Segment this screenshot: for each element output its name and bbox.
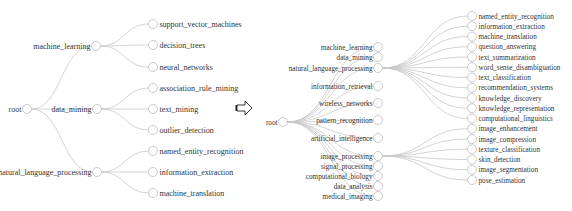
right-leaf-node[interactable]: text_classification (468, 73, 532, 82)
node-circle-icon[interactable] (149, 168, 158, 177)
node-circle-icon[interactable] (93, 168, 102, 177)
left-root-node[interactable]: root (9, 105, 32, 114)
right-leaf-node[interactable]: information_extraction (468, 22, 546, 31)
node-circle-icon[interactable] (149, 63, 158, 72)
left-leaf-node[interactable]: text_mining (149, 105, 199, 114)
node-label: outlier_detection (160, 126, 214, 135)
node-circle-icon[interactable] (374, 162, 383, 171)
right-child-node[interactable]: natural_language_processing (289, 64, 383, 73)
left-leaf-node[interactable]: information_extraction (149, 168, 234, 177)
node-label: association_rule_mining (160, 84, 239, 93)
right-leaf-node[interactable]: image_segmentation (468, 165, 539, 174)
left-leaf-node[interactable]: decision_trees (149, 41, 206, 50)
node-label: data_analysis (334, 183, 373, 191)
node-circle-icon[interactable] (468, 135, 477, 144)
node-circle-icon[interactable] (374, 53, 383, 62)
node-circle-icon[interactable] (468, 114, 477, 123)
left-child-node[interactable]: machine_learning (33, 42, 100, 51)
right-leaf-node[interactable]: texture_classification (468, 145, 541, 154)
node-circle-icon[interactable] (468, 73, 477, 82)
right-leaf-node[interactable]: knowledge_representation (468, 104, 555, 113)
node-label: pose_estimation (479, 177, 526, 185)
node-label: natural_language_processing (0, 168, 92, 177)
right-leaf-node[interactable]: image_enhancement (468, 124, 538, 133)
left-leaf-node[interactable]: outlier_detection (149, 126, 214, 135)
node-circle-icon[interactable] (468, 12, 477, 21)
right-child-node[interactable]: signal_processing (321, 162, 383, 171)
node-circle-icon[interactable] (468, 94, 477, 103)
node-circle-icon[interactable] (468, 145, 477, 154)
node-circle-icon[interactable] (374, 99, 383, 108)
node-circle-icon[interactable] (374, 182, 383, 191)
node-circle-icon[interactable] (149, 105, 158, 114)
left-leaf-node[interactable]: association_rule_mining (149, 84, 239, 93)
right-leaf-node[interactable]: question_answering (468, 42, 537, 51)
right-leaf-node[interactable]: pose_estimation (468, 176, 526, 185)
right-child-node[interactable]: image_processing (321, 152, 383, 161)
node-label: data_mining (337, 54, 373, 62)
node-circle-icon[interactable] (374, 82, 383, 91)
right-leaf-node[interactable]: named_entity_recognition (468, 12, 555, 21)
right-child-node[interactable]: machine_learning (321, 43, 383, 52)
node-circle-icon[interactable] (149, 20, 158, 29)
node-circle-icon[interactable] (149, 41, 158, 50)
right-leaf-node[interactable]: skin_detection (468, 155, 521, 164)
node-circle-icon[interactable] (374, 172, 383, 181)
node-label: machine_learning (321, 44, 373, 52)
right-child-node[interactable]: information_retrieval (311, 82, 382, 91)
tree-link (383, 68, 468, 88)
node-circle-icon[interactable] (149, 147, 158, 156)
left-leaf-node[interactable]: machine_translation (149, 189, 225, 198)
right-child-node[interactable]: artificial_intelligence (311, 134, 382, 143)
node-circle-icon[interactable] (468, 63, 477, 72)
node-circle-icon[interactable] (149, 84, 158, 93)
left-child-node[interactable]: data_mining (52, 105, 102, 114)
node-circle-icon[interactable] (149, 126, 158, 135)
right-child-node[interactable]: computational_biology (306, 172, 383, 181)
node-circle-icon[interactable] (468, 53, 477, 62)
node-circle-icon[interactable] (149, 189, 158, 198)
right-leaf-node[interactable]: text_summarization (468, 53, 536, 62)
node-circle-icon[interactable] (468, 32, 477, 41)
tree-diagram: support_vector_machinesdecision_treesneu… (0, 0, 572, 211)
tree-link (383, 139, 468, 156)
node-circle-icon[interactable] (374, 152, 383, 161)
node-circle-icon[interactable] (468, 165, 477, 174)
left-child-node[interactable]: natural_language_processing (0, 168, 102, 177)
node-circle-icon[interactable] (93, 105, 102, 114)
left-leaf-node[interactable]: neural_networks (149, 63, 213, 72)
left-leaf-node[interactable]: named_entity_recognition (149, 147, 244, 156)
node-label: recommendation_systems (479, 84, 554, 92)
right-leaf-node[interactable]: image_compression (468, 135, 537, 144)
right-child-node[interactable]: data_analysis (334, 182, 383, 191)
tree-link (101, 46, 149, 67)
node-circle-icon[interactable] (468, 22, 477, 31)
right-root-node[interactable]: root (266, 118, 288, 127)
right-child-node[interactable]: medical_imaging (323, 192, 383, 201)
node-circle-icon[interactable] (468, 104, 477, 113)
right-arrow-icon (236, 101, 253, 115)
node-circle-icon[interactable] (468, 42, 477, 51)
node-circle-icon[interactable] (374, 192, 383, 201)
right-child-node[interactable]: data_mining (337, 53, 383, 62)
node-circle-icon[interactable] (468, 83, 477, 92)
node-label: computational_biology (306, 173, 373, 181)
node-circle-icon[interactable] (279, 118, 288, 127)
left-leaf-node[interactable]: support_vector_machines (149, 20, 242, 29)
right-leaf-node[interactable]: word_sense_disambiguation (468, 63, 561, 72)
tree-link (383, 129, 468, 156)
tree-link (383, 16, 468, 68)
node-circle-icon[interactable] (374, 64, 383, 73)
node-circle-icon[interactable] (374, 116, 383, 125)
right-leaf-node[interactable]: computational_linguistics (468, 114, 553, 123)
node-circle-icon[interactable] (468, 176, 477, 185)
node-circle-icon[interactable] (92, 42, 101, 51)
right-leaf-node[interactable]: recommendation_systems (468, 83, 554, 92)
node-circle-icon[interactable] (468, 124, 477, 133)
node-circle-icon[interactable] (374, 43, 383, 52)
right-leaf-node[interactable]: machine_translation (468, 32, 538, 41)
node-circle-icon[interactable] (23, 105, 32, 114)
node-circle-icon[interactable] (374, 134, 383, 143)
right-leaf-node[interactable]: knowledge_discovery (468, 94, 542, 103)
node-circle-icon[interactable] (468, 155, 477, 164)
